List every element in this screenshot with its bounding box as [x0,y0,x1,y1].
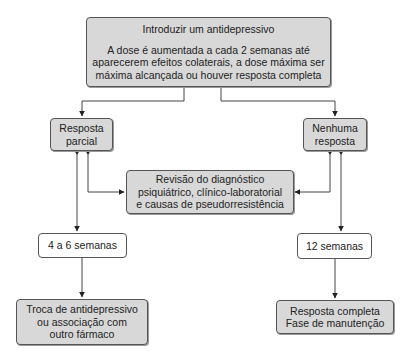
no-response-box: Nenhuma resposta [303,118,367,151]
weeks-4-6-box: 4 a 6 semanas [38,233,127,258]
partial-response-box: Resposta parcial [50,118,113,151]
switch-box: Troca de antidepressivo ou associação co… [16,299,148,345]
connector-start-to-partial [82,87,184,116]
weeks-12-label: 12 semanas [306,240,363,253]
connector-review-to-partial [88,155,124,192]
review-line: e causas de pseudorresistência [136,198,284,211]
partial-response-line: Resposta [59,122,103,135]
no-response-line: Nenhuma [312,122,358,135]
weeks-4-6-label: 4 a 6 semanas [48,239,117,252]
start-text-line: aparecerem efeitos colaterais, a dose má… [92,56,324,69]
complete-response-line: Resposta completa [290,305,380,318]
start-text-line: máxima alcançada ou houver resposta comp… [96,69,322,82]
start-text-line: A dose é aumentada a cada 2 semanas até [107,44,310,57]
switch-line: outro fármaco [50,328,115,341]
review-line: psiquiátrico, clínico-laboratorial [138,186,282,199]
review-line: Revisão do diagnóstico [156,173,265,186]
connector-review-to-none [295,155,330,192]
review-box: Revisão do diagnóstico psiquiátrico, clí… [126,170,294,214]
switch-line: Troca de antidepressivo [26,303,138,316]
complete-response-box: Resposta completa Fase de manutenção [276,300,394,334]
partial-response-line: parcial [66,135,97,148]
connector-start-to-none [221,87,335,116]
no-response-line: resposta [315,135,355,148]
switch-line: ou associação com [37,316,127,329]
start-title: Introduzir um antidepressivo [143,23,275,36]
start-box: Introduzir um antidepressivo A dose é au… [86,17,331,87]
weeks-12-box: 12 semanas [297,233,372,259]
complete-response-line: Fase de manutenção [286,317,385,330]
